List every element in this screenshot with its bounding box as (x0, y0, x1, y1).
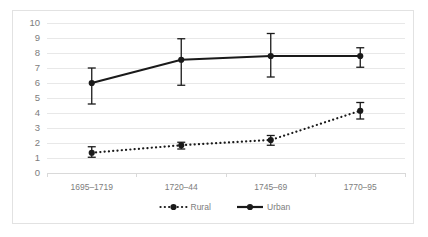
y-axis-tick-label: 8 (35, 47, 40, 58)
data-point-marker (268, 53, 274, 59)
legend-item-label: Urban (267, 202, 290, 212)
series-urban (88, 34, 365, 105)
series-rural (88, 103, 365, 158)
x-axis-tick-labels: 1695–17191720–441745–691770–95 (70, 182, 377, 192)
x-axis-tickmarks (47, 173, 405, 177)
series-line (92, 56, 361, 83)
data-point-marker (357, 108, 363, 114)
y-axis-tick-label: 4 (35, 107, 40, 118)
plot-area: 012345678910 1695–17191720–441745–691770… (13, 11, 413, 223)
line-chart-svg: 012345678910 1695–17191720–441745–691770… (13, 11, 415, 225)
series-line (92, 111, 361, 153)
x-axis-tick-label: 1695–1719 (70, 182, 113, 192)
y-axis-tick-label: 3 (35, 122, 40, 133)
x-axis-tick-label: 1720–44 (165, 182, 198, 192)
data-point-marker (357, 53, 363, 59)
data-point-marker (268, 137, 274, 143)
gridlines-group (47, 23, 405, 173)
y-axis-tick-label: 1 (35, 152, 40, 163)
data-point-marker (89, 150, 95, 156)
x-axis-tick-label: 1745–69 (254, 182, 287, 192)
y-axis-tick-label: 2 (35, 137, 40, 148)
chart-legend: RuralUrban (161, 202, 291, 212)
data-series-group (88, 34, 365, 158)
y-axis-tick-label: 10 (29, 17, 40, 28)
chart-container: 012345678910 1695–17191720–441745–691770… (12, 10, 414, 224)
data-point-marker (178, 57, 184, 63)
data-point-marker (178, 142, 184, 148)
legend-item-label: Rural (191, 202, 211, 212)
y-axis-tick-label: 0 (35, 167, 40, 178)
legend-item-urban[interactable]: Urban (237, 202, 290, 212)
legend-item-rural[interactable]: Rural (161, 202, 211, 212)
y-axis-tick-label: 9 (35, 32, 40, 43)
y-axis-tick-label: 7 (35, 62, 40, 73)
legend-swatch-marker (170, 204, 176, 210)
legend-swatch-marker (247, 204, 253, 210)
data-point-marker (89, 80, 95, 86)
x-axis-tick-label: 1770–95 (344, 182, 377, 192)
y-axis-tick-label: 5 (35, 92, 40, 103)
y-axis-tick-label: 6 (35, 77, 40, 88)
y-axis-tick-labels: 012345678910 (29, 17, 40, 178)
